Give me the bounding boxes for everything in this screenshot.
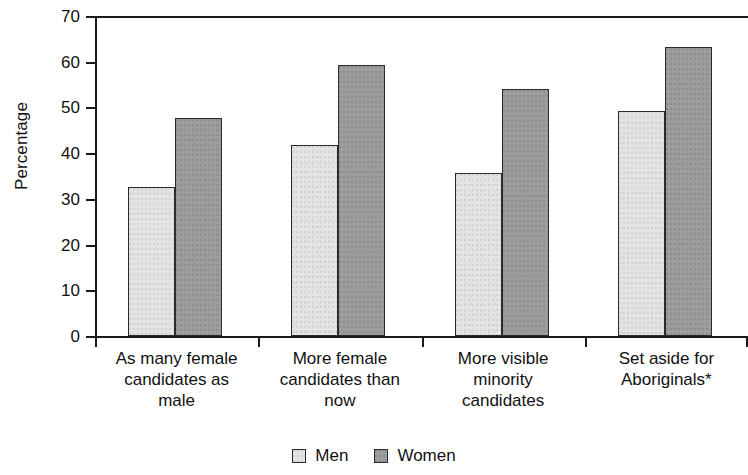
bar-women-2 [502,89,549,336]
category-label-line: minority [422,369,585,390]
y-axis-line [95,16,97,338]
plot-top-border [95,16,748,18]
y-axis-tick-label: 50 [61,99,80,116]
category-label-line: Aboriginals* [585,369,748,390]
legend-item-label: Men [315,446,348,466]
light-square-swatch [292,449,306,463]
y-axis-tick [86,290,95,292]
category-label-line: More female [258,348,421,369]
bar-women-3 [665,47,712,336]
bar-men-0 [128,187,175,336]
plot-area [95,16,748,338]
bar-men-1 [291,145,338,336]
y-axis-tick [86,62,95,64]
y-axis-tick-label: 30 [61,190,80,207]
legend-item-label: Women [397,446,455,466]
category-label-line: now [258,390,421,411]
category-label-line: More visible [422,348,585,369]
category-label-line: Set aside for [585,348,748,369]
x-axis-tick [422,338,424,347]
x-axis-tick [258,338,260,347]
x-axis-category-label-2: More visibleminoritycandidates [422,348,585,411]
category-label-line: candidates [422,390,585,411]
y-axis-tick [86,199,95,201]
y-axis-tick [86,245,95,247]
chart-legend: MenWomen [0,446,748,466]
category-label-line: As many female [95,348,258,369]
legend-item-men[interactable]: Men [292,446,348,466]
y-axis-tick-label: 40 [61,145,80,162]
bar-men-3 [618,111,665,336]
y-axis-tick [86,336,95,338]
x-axis-category-labels: As many femalecandidates asmaleMore fema… [95,348,748,414]
x-axis-tick [95,338,97,347]
dark-square-swatch [374,449,388,463]
legend-item-women[interactable]: Women [374,446,455,466]
y-axis-tick-label: 20 [61,236,80,253]
bar-women-0 [175,118,222,336]
x-axis-category-label-3: Set aside forAboriginals* [585,348,748,390]
y-axis-tick [86,107,95,109]
bar-men-2 [455,173,502,336]
y-axis-tick [86,153,95,155]
category-label-line: candidates than [258,369,421,390]
x-axis-category-label-1: More femalecandidates thannow [258,348,421,411]
category-label-line: candidates as [95,369,258,390]
category-label-line: male [95,390,258,411]
y-axis-tick [86,16,95,18]
y-axis-tick-labels: 010203040506070 [0,16,88,338]
bar-women-1 [338,65,385,336]
y-axis-tick-label: 10 [61,282,80,299]
grouped-bar-chart: Percentage 010203040506070 As many femal… [0,0,748,475]
y-axis-tick-label: 60 [61,53,80,70]
y-axis-tick-label: 0 [71,328,80,345]
x-axis-tick [585,338,587,347]
y-axis-tick-label: 70 [61,8,80,25]
x-axis-category-label-0: As many femalecandidates asmale [95,348,258,411]
